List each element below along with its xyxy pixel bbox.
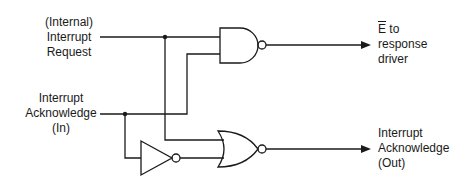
label-line: driver <box>378 52 427 67</box>
junction-dot-request <box>163 35 167 39</box>
label-line: (Internal) <box>38 15 100 30</box>
nand-gate <box>220 28 258 63</box>
label-line: (In) <box>22 121 100 136</box>
label-line: E to <box>378 22 427 37</box>
wire-ack-to-inverter <box>125 114 141 158</box>
label-line: response <box>378 37 427 52</box>
label-line: (Out) <box>378 156 449 171</box>
label-line: Request <box>38 45 100 60</box>
label-interrupt-ack-in: Interrupt Acknowledge (In) <box>22 91 100 136</box>
junction-dot-ack <box>123 112 127 116</box>
inverter-gate <box>141 141 172 175</box>
label-line: Acknowledge <box>378 141 449 156</box>
label-line: Interrupt <box>22 91 100 106</box>
label-interrupt-request: (Internal) Interrupt Request <box>38 15 100 60</box>
label-enable-out: E to response driver <box>378 22 427 67</box>
arrowhead-ack-out <box>361 145 371 153</box>
arrowhead-enable-out <box>361 41 371 49</box>
label-to: to <box>386 22 399 36</box>
label-line: Acknowledge <box>22 106 100 121</box>
wire-request-to-nor <box>165 37 224 140</box>
label-interrupt-ack-out: Interrupt Acknowledge (Out) <box>378 126 449 171</box>
wire-interrupt-ack-in <box>100 54 220 114</box>
nor-bubble <box>258 145 266 153</box>
label-line: Interrupt <box>38 30 100 45</box>
nor-gate <box>218 131 258 167</box>
label-line: Interrupt <box>378 126 449 141</box>
nand-bubble <box>258 41 266 49</box>
e-bar-signal: E <box>378 22 386 36</box>
